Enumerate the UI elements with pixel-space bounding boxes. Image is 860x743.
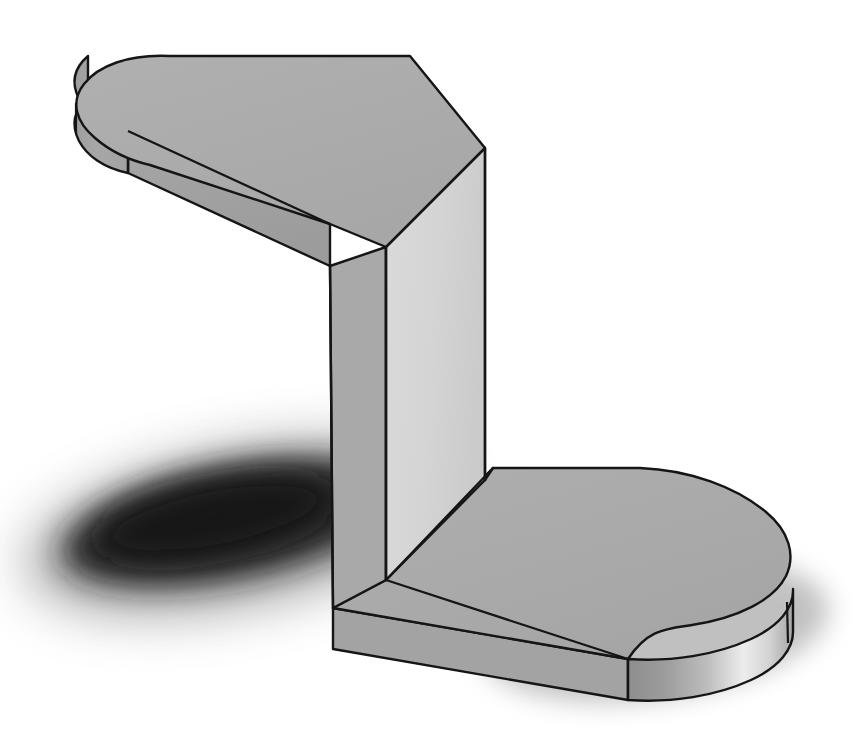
web-left-side-face [330,247,386,608]
cad-viewport: Z-Bracket Z-shaped (offset) bracket with… [0,0,860,743]
lower-arm-cylinder-silhouette-line [787,602,788,643]
isometric-part-render [0,0,860,743]
